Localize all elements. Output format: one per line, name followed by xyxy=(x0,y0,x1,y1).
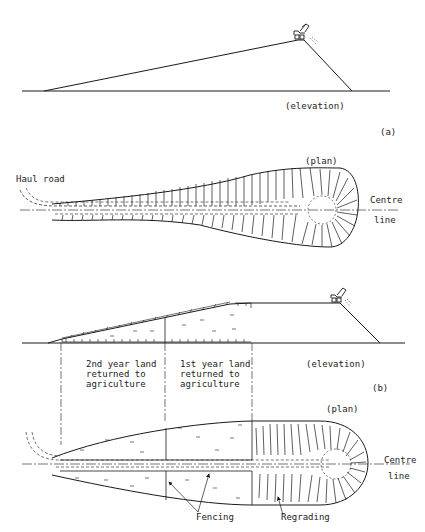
regrading-label: Regrading xyxy=(281,512,330,522)
haul-road-label: Haul road xyxy=(16,174,65,184)
zone-2nd-year-label: 2nd year land returned to agriculture xyxy=(86,359,156,389)
excavator-icon xyxy=(294,24,309,39)
panel-b-line-label: line xyxy=(388,471,410,481)
regrading-hatching xyxy=(256,424,366,503)
panel-a-centre-label: Centre xyxy=(370,195,403,205)
panel-b-tag: (b) xyxy=(372,383,388,393)
panel-a-plan xyxy=(20,168,400,247)
panel-b-plan-label: (plan) xyxy=(326,404,359,414)
panel-a-elevation xyxy=(22,24,390,91)
tipped-spoil xyxy=(310,37,318,44)
topsoil-hatching xyxy=(66,302,246,342)
panel-b-plan xyxy=(22,421,410,515)
excavator-icon xyxy=(331,288,346,302)
diagram-canvas xyxy=(0,0,425,532)
panel-a-elevation-label: (elevation) xyxy=(285,101,345,111)
panel-b-centre-label: Centre xyxy=(384,455,417,465)
tip-profile xyxy=(48,303,380,343)
panel-a-plan-label: (plan) xyxy=(305,156,338,166)
panel-a-tag: (a) xyxy=(380,127,396,137)
fencing-label: Fencing xyxy=(196,512,234,522)
zone-1st-year-label: 1st year land returned to agriculture xyxy=(180,359,250,389)
vegetation-marks xyxy=(75,425,242,498)
tipped-spoil xyxy=(345,299,352,306)
panel-a-line-label: line xyxy=(374,215,396,225)
slope-hatching xyxy=(60,168,357,247)
panel-b-elevation-label: (elevation) xyxy=(306,359,366,369)
tip-profile xyxy=(44,40,352,91)
